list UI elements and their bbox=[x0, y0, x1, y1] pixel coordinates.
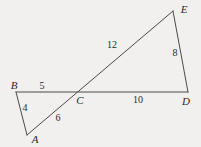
geometry-canvas bbox=[0, 0, 201, 147]
edge-group bbox=[16, 11, 188, 135]
length-CD: 10 bbox=[133, 95, 143, 105]
vertex-label-E: E bbox=[181, 4, 188, 15]
length-AC: 6 bbox=[56, 113, 61, 123]
length-DE: 8 bbox=[173, 48, 178, 58]
vertex-label-D: D bbox=[182, 96, 190, 107]
geometry-figure: ABCDE54612810 bbox=[0, 0, 201, 147]
length-BC: 5 bbox=[40, 81, 45, 91]
segment-A-E bbox=[27, 11, 173, 135]
length-CE: 12 bbox=[107, 40, 117, 50]
length-AB: 4 bbox=[23, 103, 28, 113]
vertex-label-A: A bbox=[32, 134, 39, 145]
vertex-label-B: B bbox=[11, 80, 18, 91]
segment-B-A bbox=[16, 92, 27, 135]
vertex-label-C: C bbox=[76, 95, 83, 106]
